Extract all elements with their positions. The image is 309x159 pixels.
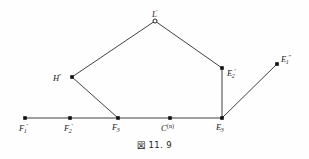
vertex-marker-F1p [23, 116, 27, 120]
vertex-label-Lp: L′ [152, 9, 158, 19]
label-superscript-Cn: (n) [167, 123, 174, 129]
label-superscript-Lp: ′ [156, 8, 158, 15]
vertex-label-F1p: F1′ [19, 123, 28, 134]
vertex-marker-E1pp [275, 62, 279, 66]
marker-layer [23, 19, 279, 120]
Lp-to-E2p-segment [155, 21, 222, 68]
vertex-label-Hpp: H″ [53, 73, 62, 83]
figure-caption-glyph: 図 [137, 140, 146, 150]
label-superscript-F2p: ′ [71, 122, 73, 129]
label-superscript-E1pp: ″ [288, 53, 291, 60]
label-subscript-F3: 3 [117, 127, 120, 133]
figure-caption-number: 11. 9 [148, 140, 172, 150]
vertex-marker-E3 [220, 116, 224, 120]
label-subscript-E3: 3 [221, 127, 224, 133]
vertex-label-F2p: F2′ [64, 123, 73, 134]
F3-to-Hpp-segment [72, 77, 118, 118]
edge-layer [25, 21, 277, 118]
vertex-marker-Cn [168, 116, 172, 120]
vertex-marker-Hpp [70, 75, 74, 79]
vertex-marker-F3 [116, 116, 120, 120]
label-superscript-Hpp: ″ [59, 72, 62, 79]
vertex-label-E1pp: E1″ [281, 54, 291, 65]
figure-caption: 図11. 9 [0, 138, 309, 150]
diagram-canvas [0, 0, 309, 159]
label-superscript-E2p: ′ [234, 67, 236, 74]
vertex-marker-E2p [220, 66, 224, 70]
vertex-marker-F2p [68, 116, 72, 120]
vertex-label-F3: F3 [112, 123, 120, 133]
figure-container: F1′F2′F3C(n)E3H″L′E2′E1″ 図11. 9 [0, 0, 309, 159]
vertex-label-E2p: E2′ [227, 68, 236, 79]
vertex-label-Cn: C(n) [161, 123, 174, 132]
vertex-marker-Lp [153, 19, 157, 23]
label-superscript-F1p: ′ [26, 122, 28, 129]
vertex-label-E3: E3 [216, 123, 224, 133]
Hpp-to-Lp-segment [72, 21, 155, 77]
